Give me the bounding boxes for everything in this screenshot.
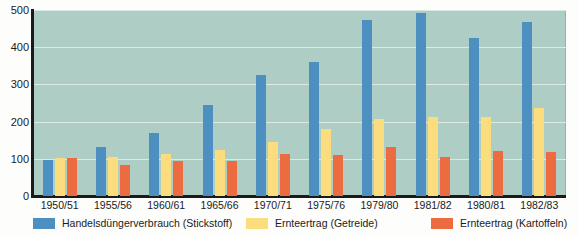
bar-group bbox=[43, 10, 77, 196]
bar[interactable] bbox=[534, 108, 544, 196]
bar[interactable] bbox=[108, 157, 118, 196]
bar-group bbox=[256, 10, 290, 196]
legend-swatch-icon bbox=[246, 218, 268, 229]
y-tick-label: 400 bbox=[1, 42, 29, 53]
bar[interactable] bbox=[333, 155, 343, 196]
x-tick-label: 1970/71 bbox=[246, 199, 299, 212]
y-tick-label: 500 bbox=[1, 5, 29, 16]
legend-entry[interactable]: Ernteertrag (Kartoffeln) bbox=[431, 216, 567, 230]
bars-layer bbox=[33, 10, 566, 196]
chart-legend: Handelsdüngerverbrauch (Stickstoff)Ernte… bbox=[33, 216, 573, 232]
bar[interactable] bbox=[67, 158, 77, 196]
legend-swatch-icon bbox=[431, 218, 453, 229]
bar-group bbox=[96, 10, 130, 196]
bar-group bbox=[149, 10, 183, 196]
bar[interactable] bbox=[120, 165, 130, 196]
bar[interactable] bbox=[440, 157, 450, 196]
bar[interactable] bbox=[546, 152, 556, 196]
bar[interactable] bbox=[321, 129, 331, 196]
bar[interactable] bbox=[227, 161, 237, 196]
bar[interactable] bbox=[173, 161, 183, 196]
legend-entry[interactable]: Ernteertrag (Getreide) bbox=[246, 216, 378, 230]
bar-group bbox=[362, 10, 396, 196]
bar[interactable] bbox=[215, 150, 225, 196]
legend-entry[interactable]: Handelsdüngerverbrauch (Stickstoff) bbox=[33, 216, 232, 230]
bar[interactable] bbox=[416, 13, 426, 196]
bar[interactable] bbox=[96, 147, 106, 196]
bar-group bbox=[416, 10, 450, 196]
y-tick-label: 200 bbox=[1, 117, 29, 128]
legend-label: Ernteertrag (Getreide) bbox=[275, 217, 378, 229]
bar[interactable] bbox=[386, 147, 396, 196]
bar[interactable] bbox=[43, 160, 53, 196]
x-tick-label: 1980/81 bbox=[459, 199, 512, 212]
bar[interactable] bbox=[522, 22, 532, 196]
bar[interactable] bbox=[374, 119, 384, 196]
bar[interactable] bbox=[428, 117, 438, 196]
bar[interactable] bbox=[362, 20, 372, 196]
bar[interactable] bbox=[149, 133, 159, 196]
bar[interactable] bbox=[256, 75, 266, 196]
legend-label: Ernteertrag (Kartoffeln) bbox=[460, 217, 567, 229]
x-axis-tick-labels: 1950/511955/561960/611965/661970/711975/… bbox=[33, 199, 566, 213]
x-tick-label: 1950/51 bbox=[33, 199, 86, 212]
y-axis-tick-labels: 0100200300400500 bbox=[0, 10, 29, 197]
x-tick-label: 1981/82 bbox=[406, 199, 459, 212]
y-tick-label: 100 bbox=[1, 154, 29, 165]
bar[interactable] bbox=[161, 154, 171, 196]
legend-label: Handelsdüngerverbrauch (Stickstoff) bbox=[62, 217, 232, 229]
y-tick-label: 0 bbox=[1, 191, 29, 202]
bar[interactable] bbox=[493, 151, 503, 196]
x-tick-label: 1955/56 bbox=[86, 199, 139, 212]
bar[interactable] bbox=[280, 154, 290, 196]
x-tick-label: 1965/66 bbox=[193, 199, 246, 212]
bar[interactable] bbox=[309, 62, 319, 196]
bar-group bbox=[203, 10, 237, 196]
bar[interactable] bbox=[481, 117, 491, 196]
bar[interactable] bbox=[469, 38, 479, 196]
x-tick-label: 1982/83 bbox=[513, 199, 566, 212]
legend-swatch-icon bbox=[33, 218, 55, 229]
bar[interactable] bbox=[203, 105, 213, 196]
y-tick-label: 300 bbox=[1, 79, 29, 90]
bar[interactable] bbox=[55, 158, 65, 196]
x-tick-label: 1960/61 bbox=[140, 199, 193, 212]
x-tick-label: 1975/76 bbox=[300, 199, 353, 212]
x-tick-label: 1979/80 bbox=[353, 199, 406, 212]
bar-group bbox=[469, 10, 503, 196]
bar-chart-figure: 0100200300400500 1950/511955/561960/6119… bbox=[0, 0, 579, 236]
bar-group bbox=[309, 10, 343, 196]
bar-group bbox=[522, 10, 556, 196]
bar[interactable] bbox=[268, 142, 278, 196]
